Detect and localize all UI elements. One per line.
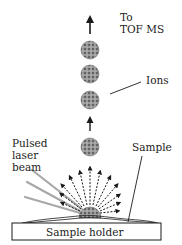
label-beam: beam — [12, 161, 41, 173]
desorption-plume-icon — [61, 168, 119, 213]
label-tof-ms: TOF MS — [120, 23, 164, 35]
laser-beam-icon — [25, 170, 82, 213]
top-arrow-icon — [86, 15, 94, 34]
diagram-canvas — [0, 0, 182, 245]
ion-cluster-icon — [81, 41, 99, 59]
label-sample: Sample — [132, 141, 172, 153]
ion-cluster-icon — [81, 65, 99, 83]
label-pulsed: Pulsed — [12, 137, 48, 149]
ion-cluster-icon — [81, 91, 99, 109]
maldi-diagram: To TOF MS Ions Pulsed laser beam Sample … — [0, 0, 182, 245]
ions-leader-line — [110, 82, 141, 94]
label-ions: Ions — [146, 74, 169, 86]
ion-cluster-icon — [81, 138, 99, 156]
label-sample-holder: Sample holder — [46, 226, 123, 238]
sample-leader-line — [128, 156, 142, 222]
label-to: To — [120, 11, 133, 23]
label-laser: laser — [12, 149, 38, 161]
middle-arrow-icon — [87, 116, 94, 131]
